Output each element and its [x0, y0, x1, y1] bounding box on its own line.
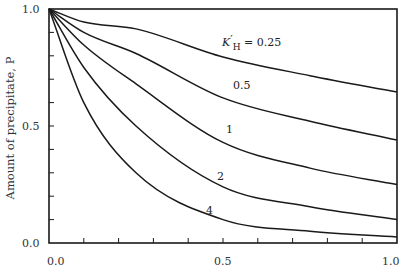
curve-label-1: 1: [226, 123, 233, 136]
curve-label-4: 4: [206, 204, 213, 217]
x-tick-05: 0.5: [214, 255, 232, 268]
curve-label-2: 2: [217, 170, 224, 183]
curve-k-05: [49, 9, 397, 140]
curve-label-05: 0.5: [233, 79, 251, 92]
curve-k-025: [49, 9, 397, 92]
k-sub: H: [233, 42, 241, 52]
y-tick-1: 1.0: [22, 3, 40, 16]
k-eq: = 0.25: [241, 36, 282, 49]
x-tick-0: 0.0: [47, 255, 65, 268]
x-tick-1: 1.0: [382, 255, 400, 268]
chart-plot: 0.0 0.5 1.0 0.0 0.5 1.0 Amount of precip…: [0, 0, 406, 276]
y-tick-0: 0.0: [22, 237, 40, 250]
curve-label-025: K′H = 0.25: [221, 33, 281, 52]
y-axis-title: Amount of precipitate, P: [3, 56, 17, 200]
y-tick-05: 0.5: [22, 120, 40, 133]
